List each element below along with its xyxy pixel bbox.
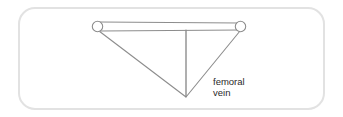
right-junction-circle (235, 21, 245, 31)
femoral-vein-label-line2: vein (213, 87, 230, 98)
femoral-vein-diagram: femoral vein (0, 0, 343, 117)
femoral-vein-label-line1: femoral (213, 76, 245, 87)
figure-container: femoral vein (0, 0, 343, 117)
rounded-border-frame (19, 8, 324, 109)
left-junction-circle (92, 21, 102, 31)
